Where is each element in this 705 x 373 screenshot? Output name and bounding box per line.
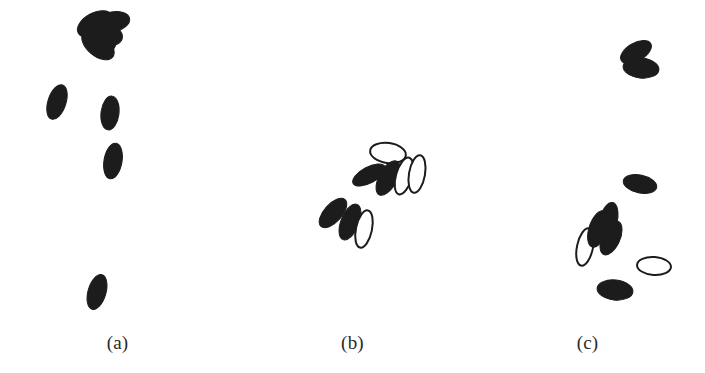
- panel-b: (b): [235, 0, 470, 373]
- panel-label-c: (c): [470, 332, 705, 354]
- panel-c: (c): [470, 0, 705, 373]
- figure-root: (a) (b) (c): [0, 0, 705, 373]
- panel-label-b: (b): [235, 332, 470, 354]
- panel-label-a: (a): [0, 332, 235, 354]
- panel-a: (a): [0, 0, 235, 373]
